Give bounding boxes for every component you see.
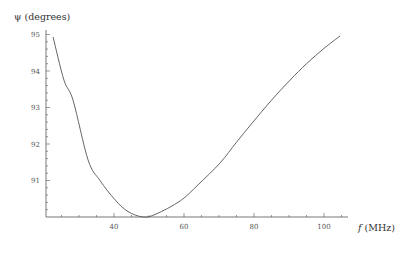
y-tick-label: 94 bbox=[31, 68, 40, 76]
psi-curve bbox=[53, 36, 340, 217]
x-axis-ticks: 406080100 bbox=[62, 213, 342, 231]
y-tick-label: 93 bbox=[31, 104, 40, 112]
axes bbox=[46, 30, 348, 217]
x-axis-title: f (MHz) bbox=[357, 222, 395, 233]
line-chart: 9192939495 406080100 ψ (degrees) f (MHz) bbox=[0, 0, 412, 256]
y-tick-label: 91 bbox=[31, 177, 40, 185]
x-tick-label: 100 bbox=[317, 223, 330, 231]
x-tick-label: 60 bbox=[180, 223, 189, 231]
y-tick-label: 92 bbox=[31, 141, 40, 149]
x-tick-label: 40 bbox=[110, 223, 119, 231]
y-axis-title: ψ (degrees) bbox=[14, 11, 70, 22]
y-tick-label: 95 bbox=[31, 31, 40, 39]
y-axis-ticks: 9192939495 bbox=[31, 31, 50, 210]
x-tick-label: 80 bbox=[250, 223, 259, 231]
